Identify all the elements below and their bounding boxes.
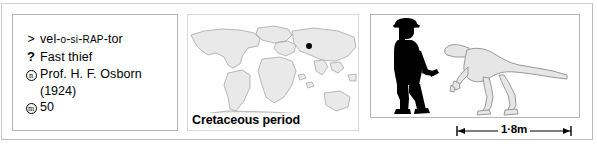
named-by-year: (1924)	[22, 83, 177, 99]
scale-bar: 1·8m	[455, 122, 573, 138]
measurement-symbol-icon: m	[22, 100, 40, 115]
fact-row-meaning: ? Fast thief	[22, 49, 177, 65]
fact-list: > vel-o-si-RAP-tor ? Fast thief n Prof. …	[22, 31, 177, 116]
scale-measurement-label: 1·8m	[455, 122, 573, 136]
pron-seg-7: -tor	[104, 32, 123, 46]
fact-row-measurement: m 50	[22, 99, 177, 115]
map-caption: Cretaceous period	[192, 113, 300, 127]
paleogeographic-map-panel: Cretaceous period	[187, 14, 359, 131]
fossil-marker-icon	[306, 43, 312, 49]
measurement-value: 50	[40, 99, 54, 115]
fact-row-named-by: n Prof. H. F. Osborn	[22, 66, 177, 82]
size-comparison-graphic	[371, 15, 579, 117]
pron-seg-1: vel-	[40, 32, 61, 46]
fact-list-panel: > vel-o-si-RAP-tor ? Fast thief n Prof. …	[12, 14, 178, 131]
fact-row-pronunciation: > vel-o-si-RAP-tor	[22, 31, 177, 48]
pronunciation-value: vel-o-si-RAP-tor	[40, 31, 123, 48]
circled-m-icon: m	[26, 103, 37, 114]
scale-measurement-text: 1·8m	[498, 123, 530, 135]
named-by-value: Prof. H. F. Osborn	[40, 66, 142, 82]
meaning-value: Fast thief	[40, 49, 92, 65]
circled-n-icon: n	[26, 70, 37, 81]
size-comparison-panel	[370, 14, 580, 118]
figure-root: > vel-o-si-RAP-tor ? Fast thief n Prof. …	[0, 0, 597, 144]
pronunciation-symbol-icon: >	[22, 32, 40, 47]
named-by-symbol-icon: n	[22, 67, 40, 82]
meaning-symbol-icon: ?	[22, 49, 40, 64]
pron-seg-6: RAP	[82, 34, 103, 45]
